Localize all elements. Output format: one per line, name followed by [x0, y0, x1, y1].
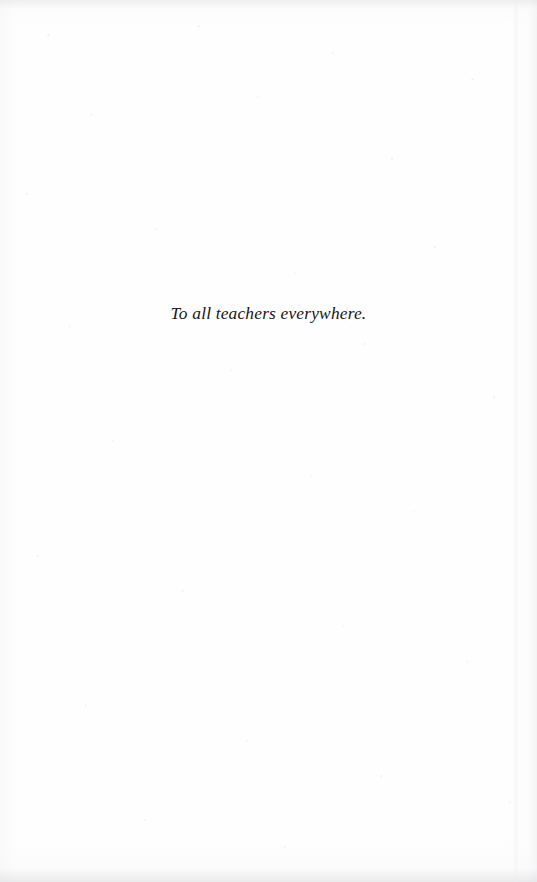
- dedication-block: To all teachers everywhere.: [0, 303, 537, 325]
- dedication-page: To all teachers everywhere.: [0, 0, 537, 882]
- scan-edge-band-right: [513, 0, 519, 882]
- paper-background: [0, 0, 537, 882]
- dedication-text: To all teachers everywhere.: [171, 303, 367, 325]
- scan-speckle-texture: [0, 0, 537, 882]
